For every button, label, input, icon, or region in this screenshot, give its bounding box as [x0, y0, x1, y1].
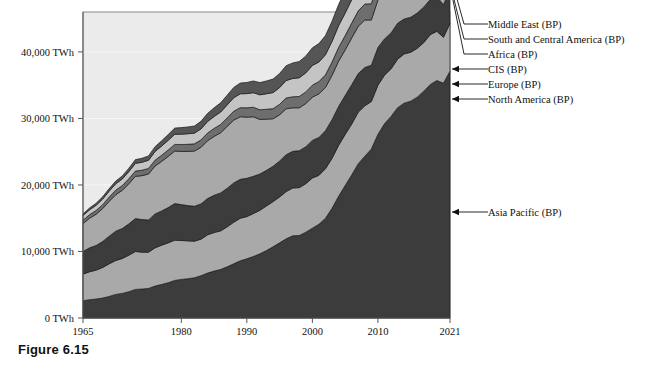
x-tick-label-2000: 2000 [302, 326, 323, 337]
callout-arrow-cis-bp [452, 66, 459, 72]
callout-arrow-europe-bp [452, 81, 459, 87]
y-tick-label-10000: 10,000 TWh [21, 246, 75, 257]
x-tick-label-2021: 2021 [440, 326, 461, 337]
x-tick-label-1965: 1965 [73, 326, 94, 337]
stacked-area-chart: 0 TWh10,000 TWh20,000 TWh30,000 TWh40,00… [0, 0, 653, 366]
callout-label-asia-pacific-bp: Asia Pacific (BP) [488, 207, 562, 219]
x-tick-label-2010: 2010 [367, 326, 388, 337]
figure-caption: Figure 6.15 [18, 342, 89, 357]
callout-label-north-america-bp: North America (BP) [488, 94, 574, 106]
y-tick-label-30000: 30,000 TWh [21, 113, 75, 124]
y-tick-label-40000: 40,000 TWh [21, 47, 75, 58]
y-axis-ticks: 0 TWh10,000 TWh20,000 TWh30,000 TWh40,00… [21, 47, 83, 324]
figure-container: 0 TWh10,000 TWh20,000 TWh30,000 TWh40,00… [0, 0, 653, 366]
callout-label-middle-east-bp: Middle East (BP) [488, 19, 562, 31]
series-callouts: Middle East (BP)South and Central Americ… [422, 0, 625, 219]
callout-label-cis-bp: CIS (BP) [488, 64, 527, 76]
x-axis-ticks: 196519801990200020102021 [73, 318, 461, 337]
callout-arrow-asia-pacific-bp [452, 209, 459, 215]
y-tick-label-20000: 20,000 TWh [21, 180, 75, 191]
callout-arrow-north-america-bp [452, 96, 459, 102]
callout-label-south-and-central-america-bp: South and Central America (BP) [488, 34, 625, 46]
x-tick-label-1980: 1980 [171, 326, 192, 337]
callout-label-europe-bp: Europe (BP) [488, 79, 541, 91]
callout-label-africa-bp: Africa (BP) [488, 49, 538, 61]
x-tick-label-1990: 1990 [236, 326, 257, 337]
y-tick-label-0: 0 TWh [45, 313, 75, 324]
